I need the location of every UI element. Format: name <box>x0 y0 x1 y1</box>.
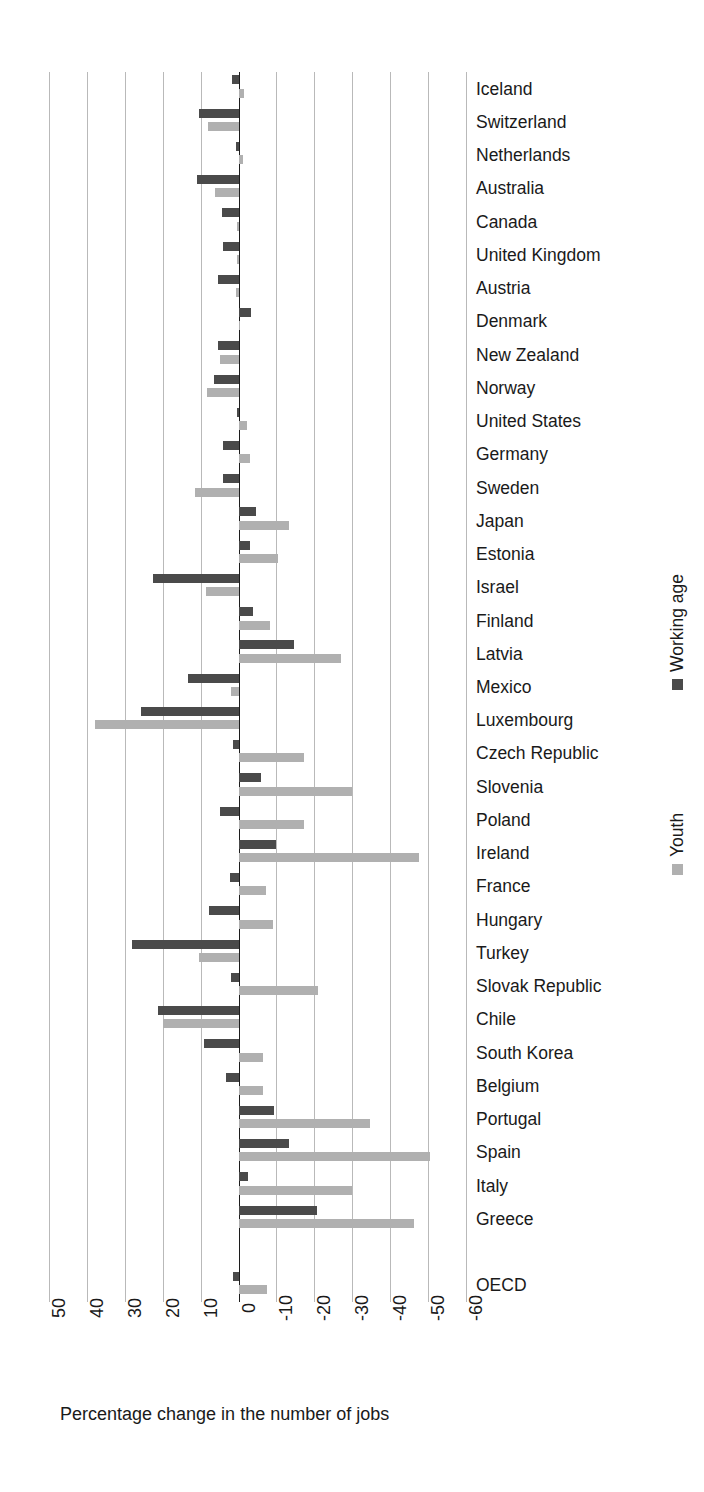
bar-youth <box>239 554 279 563</box>
category-label: Canada <box>476 212 537 232</box>
bar-working-age <box>239 308 251 317</box>
bar-youth <box>239 421 247 430</box>
bar-youth <box>239 654 341 663</box>
x-tick-label: -50 <box>428 1295 448 1321</box>
legend: Working ageYouth <box>668 560 698 880</box>
bar-working-age <box>226 1073 239 1082</box>
bar-row <box>49 504 466 537</box>
category-label: Netherlands <box>476 145 570 165</box>
category-label: United States <box>476 411 581 431</box>
bar-working-age <box>132 940 238 949</box>
plot-area <box>49 72 466 1302</box>
bar-youth <box>239 621 270 630</box>
category-label: Iceland <box>476 79 532 99</box>
bar-working-age <box>239 1139 289 1148</box>
category-label: Mexico <box>476 677 531 697</box>
category-label: South Korea <box>476 1043 573 1063</box>
x-tick-label: 10 <box>201 1298 221 1318</box>
category-label: Australia <box>476 178 544 198</box>
category-label: Finland <box>476 611 533 631</box>
bar-row <box>49 537 466 570</box>
x-tick-label: -30 <box>352 1295 372 1321</box>
bar-working-age <box>239 541 251 550</box>
bar-row <box>49 438 466 471</box>
bar-youth <box>239 820 305 829</box>
bar-youth <box>239 886 267 895</box>
bar-youth <box>239 986 318 995</box>
category-label: New Zealand <box>476 345 579 365</box>
category-label: Hungary <box>476 910 542 930</box>
bar-row <box>49 305 466 338</box>
category-label: Germany <box>476 444 548 464</box>
bar-working-age <box>188 674 239 683</box>
category-label: Slovak Republic <box>476 976 601 996</box>
bar-working-age <box>239 507 256 516</box>
category-label: Switzerland <box>476 112 566 132</box>
legend-swatch <box>672 679 683 690</box>
bar-row <box>49 770 466 803</box>
x-tick-label: -60 <box>466 1295 486 1321</box>
bar-youth <box>199 953 239 962</box>
bar-youth <box>208 122 238 131</box>
bar-working-age <box>239 640 295 649</box>
bar-youth <box>236 288 239 297</box>
bar-youth <box>215 188 239 197</box>
bar-youth <box>195 488 239 497</box>
bar-working-age <box>233 1272 239 1281</box>
bar-row <box>49 1202 466 1235</box>
bar-youth <box>239 1219 415 1228</box>
x-axis-title: Percentage change in the number of jobs <box>60 1404 389 1425</box>
bar-youth <box>206 587 239 596</box>
bar-youth <box>239 155 244 164</box>
bar-working-age <box>236 142 238 151</box>
bar-working-age <box>199 109 238 118</box>
bar-row <box>49 205 466 238</box>
bar-working-age <box>153 574 238 583</box>
bar-working-age <box>232 75 238 84</box>
category-label: Slovenia <box>476 777 543 797</box>
legend-swatch <box>672 864 683 875</box>
bar-youth <box>239 1152 430 1161</box>
bar-youth <box>239 89 245 98</box>
bar-working-age <box>223 441 239 450</box>
category-label: Chile <box>476 1009 516 1029</box>
category-label: Norway <box>476 378 535 398</box>
category-label: Poland <box>476 810 531 830</box>
category-label: United Kingdom <box>476 245 601 265</box>
bar-row <box>49 837 466 870</box>
bar-row <box>49 1036 466 1069</box>
bar-row <box>49 571 466 604</box>
bar-youth <box>231 687 238 696</box>
legend-label: Working age <box>668 574 686 672</box>
bar-youth <box>239 1086 263 1095</box>
bar-row <box>49 903 466 936</box>
legend-label: Youth <box>668 813 686 857</box>
bar-row <box>49 138 466 171</box>
bar-working-age <box>218 341 239 350</box>
bar-row <box>49 371 466 404</box>
bar-youth <box>239 454 251 463</box>
bar-working-age <box>158 1006 238 1015</box>
bar-row <box>49 704 466 737</box>
bar-working-age <box>237 408 239 417</box>
bar-row <box>49 1236 466 1269</box>
bar-row <box>49 1069 466 1102</box>
bar-youth <box>239 1119 370 1128</box>
category-label: Sweden <box>476 478 539 498</box>
bar-youth <box>220 355 239 364</box>
bar-row <box>49 238 466 271</box>
category-label: Luxembourg <box>476 710 573 730</box>
bar-row <box>49 271 466 304</box>
legend-entry: Youth <box>668 813 686 875</box>
legend-entry: Working age <box>668 574 686 690</box>
category-label: Greece <box>476 1209 533 1229</box>
bar-youth <box>239 920 273 929</box>
bar-row <box>49 936 466 969</box>
category-label: France <box>476 876 530 896</box>
x-tick-label: 0 <box>239 1303 259 1313</box>
bar-youth <box>239 787 352 796</box>
bar-working-age <box>239 607 253 616</box>
x-tick-label: -40 <box>390 1295 410 1321</box>
bar-row <box>49 471 466 504</box>
category-label: Latvia <box>476 644 523 664</box>
